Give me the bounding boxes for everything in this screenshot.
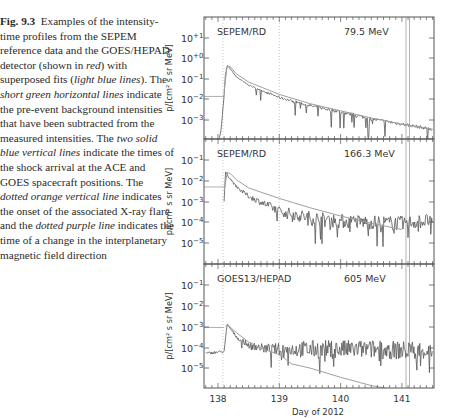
intensity-time-chart: 10+110+010−110−210−3p/[cm² s sr MeV]SEPE… xyxy=(0,0,449,418)
y-axis-label: p/[cm² s sr MeV] xyxy=(164,44,174,112)
y-axis-label: p/[cm² s sr MeV] xyxy=(164,292,174,360)
y-tick-label: 10−1 xyxy=(181,279,203,291)
x-tick-label: 138 xyxy=(209,394,226,404)
x-tick-label: 141 xyxy=(393,394,410,404)
energy-label: 79.5 MeV xyxy=(344,26,389,37)
y-tick-label: 10−3 xyxy=(181,114,203,126)
y-tick-label: 10−1 xyxy=(181,154,203,166)
panel-3: 10−110−210−310−410−5p/[cm² s sr MeV]GOES… xyxy=(164,264,434,417)
energy-label: 605 MeV xyxy=(344,273,386,284)
y-tick-label: 10−2 xyxy=(181,175,203,187)
y-tick-label: 10−5 xyxy=(181,362,203,374)
y-tick-label: 10−4 xyxy=(181,342,204,354)
y-tick-label: 10+0 xyxy=(181,52,203,64)
y-tick-label: 10−2 xyxy=(181,300,203,312)
measured-series xyxy=(206,324,433,373)
y-tick-label: 10−1 xyxy=(181,73,203,85)
y-tick-label: 10−4 xyxy=(181,216,204,228)
x-tick-label: 139 xyxy=(271,394,288,404)
y-tick-label: 10−3 xyxy=(181,321,203,333)
x-tick-label: 140 xyxy=(332,394,349,404)
dataset-label: SEPEM/RD xyxy=(217,26,266,37)
x-axis-label: Day of 2012 xyxy=(292,407,344,417)
y-tick-label: 10−2 xyxy=(181,93,203,105)
fit-series xyxy=(225,324,389,388)
dataset-label: SEPEM/RD xyxy=(217,148,266,159)
energy-label: 166.3 MeV xyxy=(344,148,395,159)
y-tick-label: 10−3 xyxy=(181,196,203,208)
fit-series xyxy=(224,66,432,130)
dataset-label: GOES13/HEPAD xyxy=(217,273,291,284)
panel-2: 10−110−210−310−410−5p/[cm² s sr MeV]SEPE… xyxy=(164,139,434,264)
y-tick-label: 10+1 xyxy=(181,32,203,44)
panel-1: 10+110+010−110−210−3p/[cm² s sr MeV]SEPE… xyxy=(164,17,434,145)
measured-series xyxy=(224,172,432,247)
y-axis-label: p/[cm² s sr MeV] xyxy=(164,168,174,236)
measured-series xyxy=(218,66,432,145)
y-tick-label: 10−5 xyxy=(181,237,203,249)
